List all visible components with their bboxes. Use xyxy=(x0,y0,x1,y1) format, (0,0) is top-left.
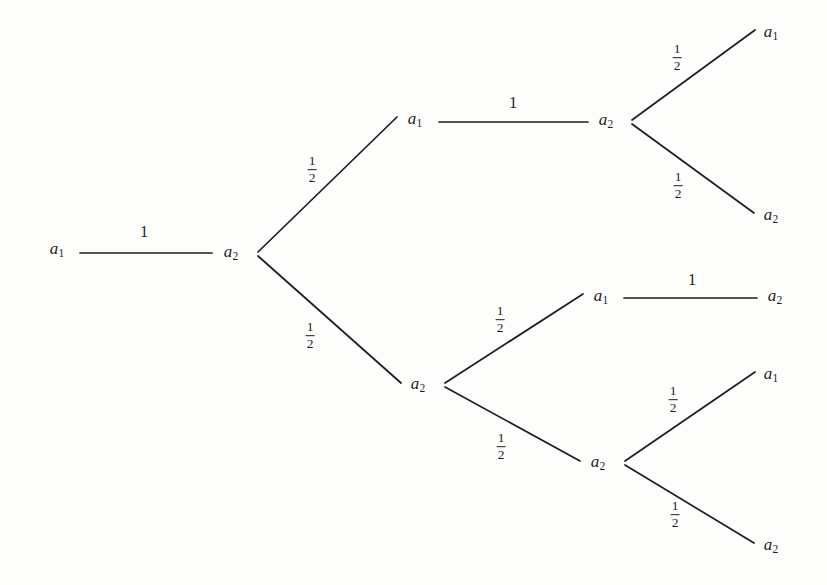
tree-edges-layer xyxy=(0,0,827,585)
fraction: 12 xyxy=(673,42,682,74)
node-subscript: 2 xyxy=(599,460,605,472)
probability-label-edge-upper-a2-to-leaf-a1: 12 xyxy=(673,42,682,74)
fraction-numerator: 1 xyxy=(306,320,315,335)
node-subscript: 1 xyxy=(58,247,64,259)
node-subscript: 1 xyxy=(772,30,778,42)
node-subscript: 2 xyxy=(776,294,782,306)
node-label-lower-leaf-a2: a2 xyxy=(764,536,779,556)
node-letter: a xyxy=(594,286,603,305)
node-letter: a xyxy=(411,374,420,393)
edge-lower-a2-to-leaf-a1 xyxy=(625,372,755,461)
fraction-numerator: 1 xyxy=(497,431,506,446)
node-label-upper-leaf-a1: a1 xyxy=(764,23,779,43)
fraction-numerator: 1 xyxy=(674,170,683,185)
probability-label-edge-level1-to-lower-a2: 12 xyxy=(306,320,315,352)
node-letter: a xyxy=(599,110,608,129)
probability-label-edge-lower-a2-to-a2: 12 xyxy=(497,431,506,463)
probability-label-edge-level1-to-upper-a1: 12 xyxy=(308,154,317,186)
fraction: 12 xyxy=(669,384,678,416)
fraction-denominator: 2 xyxy=(671,516,680,531)
edge-level1-to-lower-a2 xyxy=(258,256,401,383)
edge-level1-to-upper-a1 xyxy=(258,117,397,252)
node-letter: a xyxy=(591,452,600,471)
edge-lower-a2-to-leaf-a2 xyxy=(625,465,754,543)
node-letter: a xyxy=(764,364,773,383)
fraction-numerator: 1 xyxy=(673,42,682,57)
probability-label-edge-lower-a2-to-a1: 12 xyxy=(496,304,505,336)
node-subscript: 2 xyxy=(772,213,778,225)
fraction-numerator: 1 xyxy=(496,304,505,319)
fraction: 12 xyxy=(497,431,506,463)
probability-label-edge-upper-a1-to-upper-a2: 1 xyxy=(509,95,517,112)
fraction: 12 xyxy=(308,154,317,186)
node-subscript: 1 xyxy=(602,294,608,306)
fraction: 12 xyxy=(671,499,680,531)
fraction-denominator: 2 xyxy=(673,59,682,74)
node-subscript: 1 xyxy=(416,117,422,129)
fraction-numerator: 1 xyxy=(671,499,680,514)
node-letter: a xyxy=(50,239,59,258)
node-label-lower-a2: a2 xyxy=(411,375,426,395)
node-label-lower-upper-leaf-a2: a2 xyxy=(768,287,783,307)
node-subscript: 2 xyxy=(419,382,425,394)
node-subscript: 2 xyxy=(232,250,238,262)
node-label-upper-a1: a1 xyxy=(408,110,423,130)
fraction-denominator: 2 xyxy=(496,321,505,336)
node-letter: a xyxy=(224,242,233,261)
node-label-lower-lower-a2: a2 xyxy=(591,453,606,473)
node-label-lower-leaf-a1: a1 xyxy=(764,365,779,385)
node-subscript: 2 xyxy=(607,118,613,130)
probability-value: 1 xyxy=(509,95,517,112)
edge-upper-a2-to-leaf-a1 xyxy=(632,30,755,120)
node-letter: a xyxy=(764,205,773,224)
fraction: 12 xyxy=(674,170,683,202)
node-label-lower-upper-a1: a1 xyxy=(594,287,609,307)
probability-label-edge-lower-a1-to-leaf-a2: 1 xyxy=(688,272,696,289)
edge-lower-a2-to-a1 xyxy=(445,294,583,383)
fraction-denominator: 2 xyxy=(669,401,678,416)
probability-label-edge-lower-a2-to-leaf-a1: 12 xyxy=(669,384,678,416)
node-label-level1-a2: a2 xyxy=(224,243,239,263)
game-tree-figure: a1a2a1a2a1a2a2a1a2a2a1a2 112121121212121… xyxy=(0,0,827,585)
probability-value: 1 xyxy=(688,272,696,289)
node-label-root-a1: a1 xyxy=(50,240,65,260)
fraction-numerator: 1 xyxy=(669,384,678,399)
node-subscript: 1 xyxy=(772,372,778,384)
edge-upper-a2-to-leaf-a2 xyxy=(632,124,754,213)
fraction-numerator: 1 xyxy=(308,154,317,169)
fraction-denominator: 2 xyxy=(497,448,506,463)
node-letter: a xyxy=(768,286,777,305)
probability-label-edge-lower-a2-to-leaf-a2: 12 xyxy=(671,499,680,531)
fraction-denominator: 2 xyxy=(674,187,683,202)
node-letter: a xyxy=(764,535,773,554)
fraction-denominator: 2 xyxy=(306,337,315,352)
node-letter: a xyxy=(764,22,773,41)
node-label-upper-leaf-a2: a2 xyxy=(764,206,779,226)
fraction: 12 xyxy=(496,304,505,336)
node-letter: a xyxy=(408,109,417,128)
probability-label-edge-root-to-level1: 1 xyxy=(140,224,148,241)
fraction-denominator: 2 xyxy=(308,171,317,186)
edge-lower-a2-to-a2 xyxy=(445,387,580,461)
node-label-upper-a2: a2 xyxy=(599,111,614,131)
node-subscript: 2 xyxy=(772,543,778,555)
probability-value: 1 xyxy=(140,224,148,241)
probability-label-edge-upper-a2-to-leaf-a2: 12 xyxy=(674,170,683,202)
fraction: 12 xyxy=(306,320,315,352)
